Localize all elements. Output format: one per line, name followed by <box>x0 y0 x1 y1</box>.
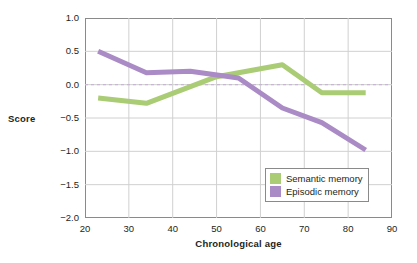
x-tick-label: 30 <box>114 224 144 234</box>
x-tick-label: 90 <box>377 224 407 234</box>
y-axis-title: Score <box>8 113 35 124</box>
x-tick-label: 60 <box>245 224 275 234</box>
x-tick-label: 20 <box>70 224 100 234</box>
legend-item-semantic-memory: Semantic memory <box>270 172 363 185</box>
x-tick-label: 50 <box>202 224 232 234</box>
x-tick-label: 80 <box>333 224 363 234</box>
legend-label-episodic-memory: Episodic memory <box>286 186 359 197</box>
x-tick-label: 70 <box>289 224 319 234</box>
x-tick-label: 40 <box>158 224 188 234</box>
x-axis-title: Chronological age <box>85 238 392 249</box>
chart-legend: Semantic memory Episodic memory <box>265 168 369 202</box>
chart-figure: 1.00.50.0−0.5−1.0−1.5−2.0 20304050607080… <box>0 0 417 263</box>
legend-item-episodic-memory: Episodic memory <box>270 185 363 198</box>
legend-swatch-semantic-memory <box>270 173 281 184</box>
legend-swatch-episodic-memory <box>270 186 281 197</box>
legend-label-semantic-memory: Semantic memory <box>286 173 363 184</box>
x-axis-tick-labels: 2030405060708090 <box>0 0 417 263</box>
